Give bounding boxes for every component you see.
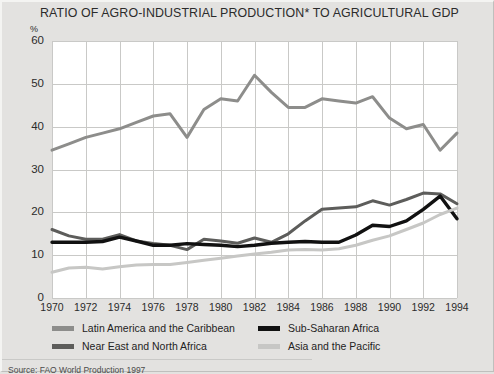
legend-label: Asia and the Pacific bbox=[288, 340, 380, 352]
legend-swatch bbox=[258, 326, 280, 331]
legend-item: Sub-Saharan Africa bbox=[258, 322, 379, 334]
chart-legend: Latin America and the CaribbeanNear East… bbox=[52, 322, 472, 358]
legend-item: Asia and the Pacific bbox=[258, 340, 380, 352]
legend-swatch bbox=[258, 344, 280, 349]
legend-label: Sub-Saharan Africa bbox=[288, 322, 379, 334]
legend-label: Latin America and the Caribbean bbox=[82, 322, 235, 334]
source-note: Source: FAO World Production 1997 bbox=[8, 365, 308, 374]
y-axis-tick-label: 60 bbox=[16, 34, 44, 46]
legend-swatch bbox=[52, 344, 74, 349]
legend-item: Near East and North Africa bbox=[52, 340, 207, 352]
y-axis-tick-label: 20 bbox=[16, 205, 44, 217]
x-axis-tick-label: 1994 bbox=[435, 301, 479, 313]
legend-label: Near East and North Africa bbox=[82, 340, 207, 352]
y-axis-tick-label: 40 bbox=[16, 120, 44, 132]
y-axis-tick-label: 50 bbox=[16, 77, 44, 89]
source-divider bbox=[2, 359, 312, 360]
y-axis-tick-label: 30 bbox=[16, 163, 44, 175]
legend-swatch bbox=[52, 326, 74, 331]
axis-tick-labels: 0102030405060197019721974197619781980198… bbox=[2, 2, 494, 374]
y-axis-tick-label: 10 bbox=[16, 248, 44, 260]
legend-item: Latin America and the Caribbean bbox=[52, 322, 235, 334]
